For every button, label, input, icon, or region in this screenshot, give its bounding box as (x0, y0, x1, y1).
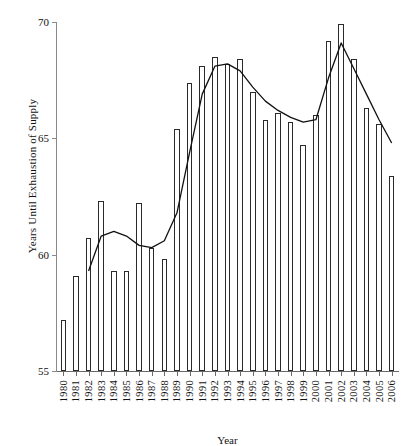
x-tick-mark (366, 371, 367, 376)
x-tick-label-1995: 1995 (247, 380, 258, 402)
x-tick-mark (190, 371, 191, 376)
x-tick-label-1996: 1996 (260, 380, 271, 402)
x-tick-mark (114, 371, 115, 376)
x-tick-mark (63, 371, 64, 376)
x-tick-mark (316, 371, 317, 376)
x-tick-mark (215, 371, 216, 376)
x-tick-label-1983: 1983 (96, 380, 107, 402)
trend-line (57, 22, 398, 371)
x-tick-mark (164, 371, 165, 376)
x-tick-label-1986: 1986 (134, 380, 145, 402)
x-tick-mark (329, 371, 330, 376)
x-tick-label-1993: 1993 (222, 380, 233, 402)
x-tick-label-2003: 2003 (348, 380, 359, 402)
x-tick-mark (354, 371, 355, 376)
x-tick-mark (177, 371, 178, 376)
x-tick-mark (139, 371, 140, 376)
x-tick-label-1981: 1981 (70, 380, 81, 402)
x-tick-label-2001: 2001 (323, 380, 334, 402)
x-tick-mark (265, 371, 266, 376)
x-tick-mark (291, 371, 292, 376)
x-tick-mark (228, 371, 229, 376)
x-tick-label-2005: 2005 (374, 380, 385, 402)
x-tick-mark (278, 371, 279, 376)
trend-line-path (89, 43, 392, 271)
x-tick-label-1994: 1994 (235, 380, 246, 402)
y-tick-label: 55 (38, 365, 49, 377)
x-tick-mark (392, 371, 393, 376)
x-tick-mark (379, 371, 380, 376)
x-tick-mark (152, 371, 153, 376)
x-tick-mark (76, 371, 77, 376)
x-tick-mark (341, 371, 342, 376)
y-axis-title: Years Until Exhaustion of Supply (26, 56, 38, 296)
y-tick-label: 70 (38, 16, 49, 28)
x-tick-mark (126, 371, 127, 376)
x-tick-mark (89, 371, 90, 376)
y-tick-mark (52, 371, 57, 372)
x-tick-mark (240, 371, 241, 376)
x-tick-label-2006: 2006 (386, 380, 397, 402)
x-tick-label-1988: 1988 (159, 380, 170, 402)
x-tick-label-2000: 2000 (310, 380, 321, 402)
x-tick-mark (253, 371, 254, 376)
x-tick-label-1998: 1998 (285, 380, 296, 402)
x-tick-label-1985: 1985 (121, 380, 132, 402)
y-tick-label: 60 (38, 249, 49, 261)
x-tick-mark (202, 371, 203, 376)
x-axis-title: Year (57, 434, 398, 446)
x-tick-label-1989: 1989 (171, 380, 182, 402)
plot-area: 55606570 1980198119821983198419851986198… (57, 22, 398, 371)
x-tick-mark (101, 371, 102, 376)
y-tick-label: 65 (38, 132, 49, 144)
x-tick-label-1987: 1987 (146, 380, 157, 402)
x-tick-label-2004: 2004 (361, 380, 372, 402)
x-tick-label-1992: 1992 (209, 380, 220, 402)
x-tick-label-1991: 1991 (197, 380, 208, 402)
x-tick-label-1980: 1980 (58, 380, 69, 402)
x-tick-label-1997: 1997 (273, 380, 284, 402)
x-tick-label-1984: 1984 (108, 380, 119, 402)
x-tick-mark (303, 371, 304, 376)
x-tick-label-1999: 1999 (298, 380, 309, 402)
x-tick-label-1982: 1982 (83, 380, 94, 402)
x-tick-label-1990: 1990 (184, 380, 195, 402)
x-tick-label-2002: 2002 (336, 380, 347, 402)
